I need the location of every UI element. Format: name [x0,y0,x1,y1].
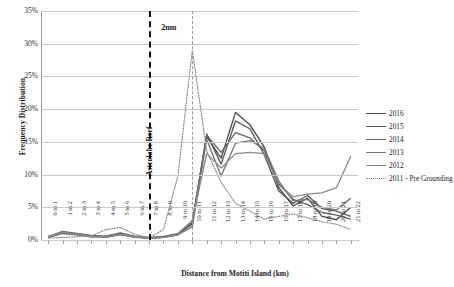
x-axis-tick-label: 20 to 21 [339,201,346,245]
x-axis-tick-label: 18 to 19 [311,201,318,245]
legend-item: 2016 [366,107,454,120]
legend-label: 2012 [389,161,404,170]
y-axis-tick-label: 35% [12,7,38,15]
legend-label: 2014 [389,135,404,144]
x-axis-tick-label: 7 to 8 [152,201,159,245]
legend-item: 2013 [366,146,454,159]
x-axis-tick [77,241,78,244]
x-axis-tick [322,241,323,244]
frequency-distribution-chart: Frequency Distribution 0%5%10%15%20%25%3… [0,0,454,287]
x-axis-tick-label: 2 to 3 [80,201,87,245]
gridline [41,175,358,176]
gridline [41,76,358,77]
legend-item: 2014 [366,133,454,146]
x-axis-tick [63,241,64,244]
x-axis-tick [106,241,107,244]
x-axis-tick-label: 15 to 16 [267,201,274,245]
x-axis-tick-label: 9 to 10 [181,201,188,245]
x-axis-tick [351,241,352,244]
x-axis-tick [336,241,337,244]
legend-swatch-icon [366,152,386,153]
x-axis-tick [149,241,150,244]
x-axis-tick [293,241,294,244]
legend-swatch-icon [366,113,386,114]
gridline [41,142,358,143]
y-axis-tick-label: 0% [12,236,38,244]
y-axis-tick-labels: 0%5%10%15%20%25%30%35% [12,0,38,287]
y-axis-tick-label: 25% [12,72,38,80]
y-axis-tick-label: 30% [12,40,38,48]
x-axis-tick-label: 16 to 17 [282,201,289,245]
legend-label: 2016 [389,109,404,118]
legend-item: 2015 [366,120,454,133]
legend-label: 2015 [389,122,404,131]
x-axis-title: Distance from Motiti Island (km) [120,269,350,278]
x-axis-tick [221,241,222,244]
legend-swatch-icon [366,139,386,140]
legend-item: 2012 [366,159,454,172]
x-axis-tick-label: 17 to 18 [296,201,303,245]
legend-label: 2011 - Pre Grounding [389,174,453,183]
x-axis-tick [279,241,280,244]
x-axis-tick-label: 12 to 13 [224,201,231,245]
gridline [41,44,358,45]
x-axis-tick [91,241,92,244]
legend-swatch-icon [366,165,386,166]
x-axis-tick [236,241,237,244]
x-axis-tick [120,241,121,244]
x-axis-tick [135,241,136,244]
legend-item: 2011 - Pre Grounding [366,172,454,185]
two-nautical-mile-marker-line [192,11,193,240]
y-axis-tick-label: 10% [12,171,38,179]
x-axis-tick-label: 5 to 6 [123,201,130,245]
x-axis-tick-label: 0 to 1 [51,201,58,245]
astrolabe-reef-label: Astrolabe Reef [145,126,154,176]
legend-label: 2013 [389,148,404,157]
y-axis-tick-label: 20% [12,105,38,113]
x-axis-tick-label: 8 to 9 [166,201,173,245]
x-axis-tick [207,241,208,244]
x-axis-tick [264,241,265,244]
legend-swatch-icon [366,178,386,179]
x-axis-tick-label: 21 to 22 [354,201,361,245]
x-axis-tick-label: 13 to 14 [239,201,246,245]
x-axis-tick [48,241,49,244]
x-axis-tick [163,241,164,244]
gridline [41,11,358,12]
x-axis-tick-label: 3 to 4 [94,201,101,245]
x-axis-tick [178,241,179,244]
x-axis-tick [308,241,309,244]
legend-swatch-icon [366,126,386,127]
gridline [41,109,358,110]
x-axis-tick-label: 10 to 11 [195,201,202,245]
x-axis-tick-label: 1 to 2 [66,201,73,245]
x-axis-tick-label: 4 to 5 [109,201,116,245]
x-axis-tick-label: 6 to 7 [138,201,145,245]
y-axis-tick-label: 15% [12,138,38,146]
x-axis-tick [250,241,251,244]
two-nautical-mile-label: 2nm [161,23,176,32]
y-axis-tick-label: 5% [12,203,38,211]
x-axis-tick-label: 19 to 20 [325,201,332,245]
chart-legend: 201620152014201320122011 - Pre Grounding [366,107,454,185]
x-axis-tick-label: 11 to 12 [210,201,217,245]
x-axis-tick [192,241,193,244]
x-axis-tick-label: 14 to 15 [253,201,260,245]
